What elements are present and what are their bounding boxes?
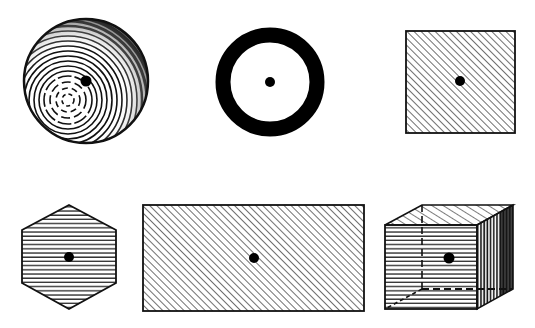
square-centroid-dot	[455, 76, 465, 86]
cube-shape	[385, 205, 513, 309]
hexagon-shape	[22, 205, 116, 309]
ring-shape	[223, 35, 317, 129]
ring-centroid-dot	[265, 77, 275, 87]
square-shape	[406, 31, 515, 133]
centroid-figure	[0, 0, 535, 328]
cube-centroid-dot	[444, 253, 455, 264]
rectangle-shape	[143, 205, 364, 311]
rectangle-centroid-dot	[249, 253, 259, 263]
sphere-shape	[0, 11, 157, 189]
sphere-centroid-dot	[81, 76, 92, 87]
hexagon-centroid-dot	[64, 252, 74, 262]
figure-caption	[0, 316, 535, 328]
